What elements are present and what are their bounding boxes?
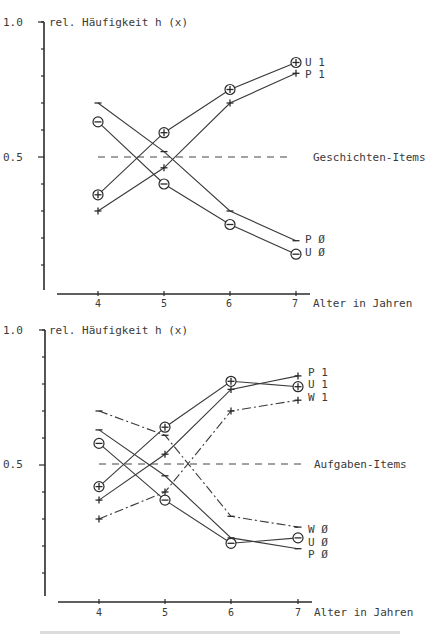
marker-plus-icon xyxy=(293,70,300,77)
marker-circle-plus-icon xyxy=(226,376,236,386)
x-tick-label-5: 5 xyxy=(161,298,167,309)
series-p1 xyxy=(96,372,302,503)
x-tick-label-6: 6 xyxy=(228,607,234,618)
end-label-p1: P 1 xyxy=(305,68,325,81)
line-charts-figure: 1.0 rel. Häufigkeit h (x) 0.5 Geschichte… xyxy=(0,0,437,634)
series-line xyxy=(99,376,298,500)
series-line xyxy=(98,122,296,254)
series-line xyxy=(99,381,298,486)
marker-circle-plus-icon xyxy=(159,128,169,138)
data-series xyxy=(94,372,303,548)
marker-circle-minus-icon xyxy=(226,538,236,548)
marker-circle-plus-icon xyxy=(225,85,235,95)
chart-aufgaben-items: 1.0 rel. Häufigkeit h (x) 0.5 Aufgaben-I… xyxy=(3,324,413,619)
figure-page: 1.0 rel. Häufigkeit h (x) 0.5 Geschichte… xyxy=(0,0,437,634)
series-p0 xyxy=(95,103,300,241)
end-label-p0: P Ø xyxy=(308,548,328,561)
series-line xyxy=(98,73,296,211)
marker-circle-plus-icon xyxy=(160,422,170,432)
reference-line-label: Aufgaben-Items xyxy=(314,458,407,471)
marker-circle-minus-icon xyxy=(159,179,169,189)
marker-circle-plus-icon xyxy=(293,382,303,392)
series-u0 xyxy=(94,438,303,548)
x-tick-label-6: 6 xyxy=(226,298,232,309)
marker-circle-minus-icon xyxy=(94,438,104,448)
axes xyxy=(39,330,312,604)
marker-circle-minus-icon xyxy=(291,249,301,259)
series-w0 xyxy=(96,411,302,527)
y-top-label: 1.0 xyxy=(3,324,23,337)
series-line xyxy=(98,103,296,241)
series-line xyxy=(99,443,298,543)
chart-geschichten-items: 1.0 rel. Häufigkeit h (x) 0.5 Geschichte… xyxy=(3,16,426,310)
series-line xyxy=(98,63,296,195)
x-tick-label-4: 4 xyxy=(96,607,102,618)
x-tick-label-4: 4 xyxy=(95,298,101,309)
end-label-w0: W Ø xyxy=(308,523,328,536)
series-u0 xyxy=(93,117,301,259)
axes xyxy=(38,22,310,296)
marker-circle-plus-icon xyxy=(93,190,103,200)
series-p0 xyxy=(96,430,302,549)
marker-circle-minus-icon xyxy=(160,495,170,505)
data-series xyxy=(93,58,301,260)
y-mid-label: 0.5 xyxy=(3,458,23,471)
marker-circle-minus-icon xyxy=(93,117,103,127)
marker-plus-icon xyxy=(96,516,103,523)
marker-plus-icon xyxy=(95,208,102,215)
end-label-p0: P Ø xyxy=(305,233,325,246)
y-axis-title: rel. Häufigkeit h (x) xyxy=(49,324,188,337)
y-mid-label: 0.5 xyxy=(3,151,23,164)
marker-circle-minus-icon xyxy=(293,533,303,543)
marker-circle-plus-icon xyxy=(94,482,104,492)
marker-circle-plus-icon xyxy=(291,58,301,68)
x-tick-label-7: 7 xyxy=(295,607,301,618)
series-p1 xyxy=(95,70,300,215)
x-axis-title: Alter in Jahren xyxy=(313,297,412,310)
y-axis-title: rel. Häufigkeit h (x) xyxy=(49,16,188,29)
end-label-u0: U Ø xyxy=(305,246,325,259)
marker-circle-minus-icon xyxy=(225,220,235,230)
series-u1 xyxy=(94,376,303,491)
end-label-w1: W 1 xyxy=(308,391,328,404)
y-top-label: 1.0 xyxy=(3,16,23,29)
series-w1 xyxy=(96,397,302,523)
marker-plus-icon xyxy=(295,397,302,404)
x-tick-label-5: 5 xyxy=(162,607,168,618)
x-tick-label-7: 7 xyxy=(292,298,298,309)
marker-plus-icon xyxy=(96,497,103,504)
reference-line-label: Geschichten-Items xyxy=(313,151,426,164)
x-axis-title: Alter in Jahren xyxy=(314,606,413,619)
series-u1 xyxy=(93,58,301,200)
series-line xyxy=(99,430,298,549)
marker-plus-icon xyxy=(295,372,302,379)
end-label-u1: U 1 xyxy=(308,378,328,391)
